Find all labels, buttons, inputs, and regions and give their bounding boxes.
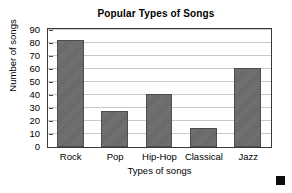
y-tick-mark xyxy=(49,147,53,148)
x-tick-label: Hip-Hop xyxy=(137,151,181,162)
y-tick-label: 10 xyxy=(16,129,40,139)
x-tick-label: Pop xyxy=(93,151,137,162)
x-tick-label: Rock xyxy=(49,151,93,162)
y-tick-label: 70 xyxy=(16,51,40,61)
y-tick-label: 60 xyxy=(16,64,40,74)
bar-chart-figure: Popular Types of Songs Number of songs 0… xyxy=(0,0,292,193)
y-tick-mark xyxy=(49,121,53,122)
bar xyxy=(190,128,217,148)
black-square-marker xyxy=(275,175,286,186)
bar xyxy=(234,68,261,147)
y-tick-mark xyxy=(49,56,53,57)
y-tick-label: 0 xyxy=(16,142,40,152)
y-tick-mark xyxy=(49,30,53,31)
y-tick-mark xyxy=(49,95,53,96)
x-axis-title: Types of songs xyxy=(47,165,272,176)
y-tick-label: 80 xyxy=(16,38,40,48)
x-tick-label: Classical xyxy=(182,151,226,162)
bar xyxy=(101,111,128,147)
y-tick-mark xyxy=(49,134,53,135)
y-tick-label: 30 xyxy=(16,103,40,113)
y-tick-label: 50 xyxy=(16,77,40,87)
x-tick-label: Jazz xyxy=(226,151,270,162)
y-tick-label: 40 xyxy=(16,90,40,100)
plot-area xyxy=(47,28,272,148)
y-tick-mark xyxy=(49,43,53,44)
y-tick-label: 90 xyxy=(16,25,40,35)
y-tick-label: 20 xyxy=(16,116,40,126)
bars-group xyxy=(48,29,271,147)
chart-title: Popular Types of Songs xyxy=(40,8,272,19)
bar xyxy=(146,94,173,147)
y-tick-mark xyxy=(49,82,53,83)
bar xyxy=(57,40,84,147)
y-tick-mark xyxy=(49,108,53,109)
y-tick-mark xyxy=(49,69,53,70)
